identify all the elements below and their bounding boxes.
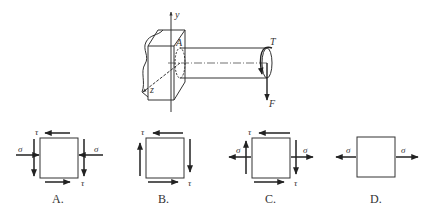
- torque-label: T: [270, 36, 277, 47]
- option-c: [229, 133, 313, 182]
- option-d-label[interactable]: D.: [370, 192, 382, 206]
- option-c-tau-top: τ: [248, 127, 252, 137]
- option-b-label[interactable]: B.: [158, 192, 169, 206]
- option-c-label[interactable]: C.: [265, 192, 276, 206]
- option-d-sigma-right: σ: [401, 145, 406, 155]
- option-d: [336, 137, 418, 177]
- option-b-tau-bottom: τ: [188, 178, 192, 188]
- point-a-label: A: [175, 37, 183, 48]
- option-a-sigma-left: σ: [18, 144, 23, 154]
- z-axis-label: z: [149, 84, 154, 95]
- option-d-sigma-left: σ: [346, 145, 351, 155]
- option-b: [140, 133, 190, 182]
- option-c-tau-bottom: τ: [294, 178, 298, 188]
- y-axis-label: y: [174, 9, 180, 20]
- option-a-tau-top: τ: [35, 127, 39, 137]
- option-a: [16, 133, 103, 182]
- option-a-sigma-right: σ: [94, 144, 99, 154]
- main-diagram: [142, 12, 272, 112]
- option-c-sigma-left: σ: [236, 145, 241, 155]
- force-label: F: [268, 98, 276, 109]
- option-a-tau-bottom: τ: [81, 178, 85, 188]
- option-a-label[interactable]: A.: [52, 192, 64, 206]
- option-c-sigma-right: σ: [303, 145, 308, 155]
- option-b-tau-top: τ: [141, 127, 145, 137]
- problem-figure: y z A T F τ τ σ σ A. τ τ B. τ τ σ σ C.: [0, 0, 435, 219]
